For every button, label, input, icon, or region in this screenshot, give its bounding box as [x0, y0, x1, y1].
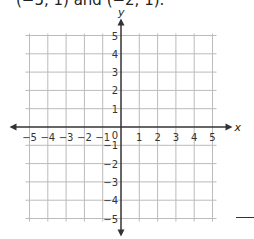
- x-tick-label: −3: [59, 132, 74, 143]
- x-axis-left-arrow-icon: [10, 124, 17, 131]
- x-tick-label: −2: [77, 132, 92, 143]
- y-tick-label: 3: [112, 67, 118, 78]
- y-tick-label: 5: [112, 31, 118, 42]
- x-axis-label: x: [234, 121, 242, 134]
- y-tick-label: −1: [103, 140, 118, 151]
- x-tick-label: −4: [40, 132, 55, 143]
- coordinate-plane: xy−5−4−3−2−11234554321−1−2−3−4−50: [0, 0, 254, 239]
- y-tick-label: −3: [103, 177, 118, 188]
- y-tick-label: 4: [112, 49, 118, 60]
- x-tick-label: 5: [209, 132, 215, 143]
- answer-blank-line: [236, 217, 254, 218]
- y-tick-label: −4: [103, 195, 118, 206]
- x-tick-label: 4: [191, 132, 197, 143]
- x-tick-label: 2: [154, 132, 160, 143]
- x-tick-label: −5: [22, 132, 37, 143]
- y-tick-label: −5: [103, 214, 118, 225]
- y-axis-down-arrow-icon: [118, 230, 125, 237]
- y-tick-label: 2: [112, 85, 118, 96]
- x-tick-label: 3: [173, 132, 179, 143]
- y-axis-label: y: [117, 6, 125, 19]
- x-tick-label: 1: [136, 132, 142, 143]
- y-tick-label: 1: [112, 104, 118, 115]
- y-axis-up-arrow-icon: [118, 19, 125, 26]
- origin-label: 0: [112, 130, 118, 141]
- y-tick-label: −2: [103, 159, 118, 170]
- x-axis-right-arrow-icon: [226, 124, 233, 131]
